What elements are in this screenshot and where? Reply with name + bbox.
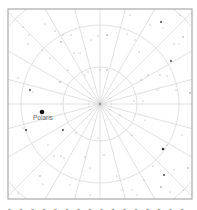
star-icon xyxy=(71,35,72,36)
star-icon xyxy=(73,52,74,53)
star-icon xyxy=(27,43,28,44)
star-icon xyxy=(130,15,131,16)
star-icon xyxy=(42,50,43,51)
star-icon xyxy=(144,180,145,181)
star-icon xyxy=(159,74,160,75)
star-icon xyxy=(157,90,158,91)
star-icon xyxy=(106,34,108,36)
star-icon xyxy=(143,101,144,102)
star-icon xyxy=(63,35,64,36)
star-icon xyxy=(145,120,146,121)
star-icon xyxy=(127,34,128,35)
star-icon xyxy=(60,155,61,156)
coordinate-grid xyxy=(0,0,197,210)
star-icon xyxy=(53,155,54,156)
polaris-marker[interactable]: Polaris xyxy=(33,110,54,121)
star-icon xyxy=(162,148,165,151)
star-icon xyxy=(132,190,133,191)
star-icon xyxy=(39,175,40,176)
star-icon xyxy=(120,115,121,116)
star-icon xyxy=(62,129,64,131)
polaris-label: Polaris xyxy=(33,114,54,121)
star-icon xyxy=(67,69,68,70)
star-icon xyxy=(29,35,30,36)
star-icon xyxy=(80,53,81,54)
star-icon xyxy=(160,186,162,188)
hour-angle-line xyxy=(100,0,197,104)
star-icon xyxy=(179,44,180,45)
star-icon xyxy=(134,101,135,102)
star-icon xyxy=(173,43,174,44)
star-icon xyxy=(170,192,171,193)
star-icon xyxy=(23,128,24,129)
star-icon xyxy=(182,36,183,37)
star-icon xyxy=(43,184,44,185)
star-icon xyxy=(33,92,34,93)
hour-angle-line xyxy=(48,104,100,210)
star-icon xyxy=(98,138,99,139)
hour-angle-line xyxy=(48,0,100,104)
star-icon xyxy=(64,158,65,159)
star-icon xyxy=(70,185,71,186)
star-icon xyxy=(54,30,55,31)
hour-angle-line xyxy=(100,104,152,210)
star-icon xyxy=(174,170,175,171)
star-icon xyxy=(141,80,142,81)
star-icon xyxy=(167,76,168,77)
star-icon xyxy=(48,145,49,146)
star-icon xyxy=(90,168,91,169)
star-icon xyxy=(135,40,136,41)
pole-center-icon xyxy=(99,103,101,105)
star-icon xyxy=(91,40,92,41)
star-icon xyxy=(117,176,118,177)
chart-caption: - - - - - - - - - - - - - - - - xyxy=(8,203,193,210)
star-icon xyxy=(90,195,91,196)
star-icon xyxy=(25,129,27,131)
star-icon xyxy=(18,193,19,194)
star-icon xyxy=(50,58,51,59)
star-icon xyxy=(182,135,183,136)
hour-angle-line xyxy=(100,0,197,104)
star-icon xyxy=(85,75,86,76)
star-icon xyxy=(23,27,24,28)
star-icon xyxy=(84,156,85,157)
star-icon xyxy=(106,69,107,70)
hour-angle-line xyxy=(100,0,152,104)
hour-angle-line xyxy=(0,0,100,104)
hour-angle-line xyxy=(0,0,100,104)
star-chart: Polaris xyxy=(0,0,197,210)
star-icon xyxy=(45,24,46,25)
star-icon xyxy=(167,145,168,146)
star-icon xyxy=(29,89,31,91)
star-icon xyxy=(187,167,188,168)
star-icon xyxy=(103,154,104,155)
star-icon xyxy=(176,90,177,91)
star-icon xyxy=(183,190,184,191)
star-icon xyxy=(138,51,139,52)
star-icon xyxy=(76,133,77,134)
star-icon xyxy=(60,41,62,43)
star-icon xyxy=(137,195,138,196)
star-icon xyxy=(180,15,181,16)
star-icon xyxy=(152,165,153,166)
star-icon xyxy=(163,28,164,29)
star-icon xyxy=(189,92,191,94)
star-icon xyxy=(170,60,172,62)
star-icon xyxy=(122,190,123,191)
star-icon xyxy=(17,77,18,78)
star-icon xyxy=(97,35,98,36)
star-icon xyxy=(163,174,165,176)
star-icon xyxy=(59,81,60,82)
star-icon xyxy=(147,74,148,75)
star-icon xyxy=(160,21,162,23)
star-icon xyxy=(88,72,89,73)
star-icon xyxy=(132,135,133,136)
star-icon xyxy=(149,24,150,25)
star-icon xyxy=(100,70,101,71)
